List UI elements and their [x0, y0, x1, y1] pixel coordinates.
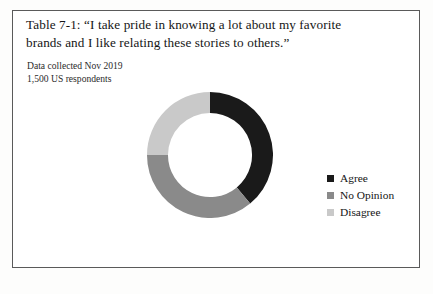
donut-chart-svg: [147, 92, 273, 218]
figure-note: Data collected Nov 2019 1,500 US respond…: [27, 60, 227, 85]
figure-title-line-2: brands and I like relating these stories…: [26, 34, 346, 52]
figure-note-line-2: 1,500 US respondents: [27, 73, 227, 86]
legend-item-agree: Agree: [327, 170, 413, 187]
legend-item-label: No Opinion: [340, 189, 394, 202]
legend-swatch-icon: [327, 175, 334, 182]
donut-slice-no-opinion: [147, 155, 250, 218]
legend-swatch-icon: [327, 192, 334, 199]
donut-slice-disagree: [147, 92, 210, 155]
figure-note-line-1: Data collected Nov 2019: [27, 60, 227, 73]
legend-item-no-opinion: No Opinion: [327, 187, 413, 204]
legend-item-label: Agree: [340, 172, 368, 185]
legend-item-label: Disagree: [340, 206, 380, 219]
legend-swatch-icon: [327, 209, 334, 216]
chart-legend: AgreeNo OpinionDisagree: [327, 170, 413, 221]
figure-title: Table 7-1: “I take pride in knowing a lo…: [26, 16, 346, 52]
figure-title-line-1: Table 7-1: “I take pride in knowing a lo…: [26, 16, 346, 34]
donut-slice-group: [147, 92, 273, 218]
legend-item-disagree: Disagree: [327, 204, 413, 221]
donut-slice-agree: [210, 92, 273, 204]
donut-chart: [147, 92, 273, 218]
